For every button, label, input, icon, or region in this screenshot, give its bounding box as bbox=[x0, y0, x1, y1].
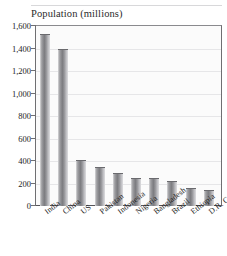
y-tick-label: 200 bbox=[1, 180, 31, 189]
bar bbox=[40, 34, 50, 206]
bar bbox=[58, 49, 68, 206]
y-tick-label: 800 bbox=[1, 112, 31, 121]
bar-series bbox=[36, 26, 221, 206]
y-tick-mark bbox=[31, 25, 35, 26]
y-tick-label: 1,200 bbox=[1, 67, 31, 76]
bar bbox=[95, 167, 105, 206]
x-axis-labels: IndiaChinaUSPakistanIndonesiaNigeriaBang… bbox=[0, 206, 227, 256]
y-axis-labels: 1,600 1,400 1,200 1,000 800 600 400 200 … bbox=[0, 25, 31, 206]
y-tick-label: 1,600 bbox=[1, 22, 31, 31]
y-tick-mark bbox=[31, 160, 35, 161]
y-tick-mark bbox=[31, 93, 35, 94]
chart-title: Population (millions) bbox=[31, 8, 123, 19]
y-tick-mark bbox=[31, 138, 35, 139]
y-tick-label: 400 bbox=[1, 157, 31, 166]
y-tick-mark bbox=[31, 70, 35, 71]
y-tick-label: 1,400 bbox=[1, 45, 31, 54]
y-tick-mark bbox=[31, 48, 35, 49]
y-tick-label: 1,000 bbox=[1, 90, 31, 99]
figure-top-rule bbox=[31, 5, 222, 6]
y-tick-mark bbox=[31, 115, 35, 116]
population-bar-chart-figure: Population (millions) 1,600 1,400 1,200 … bbox=[0, 0, 227, 256]
y-tick-mark bbox=[31, 183, 35, 184]
y-tick-label: 600 bbox=[1, 135, 31, 144]
